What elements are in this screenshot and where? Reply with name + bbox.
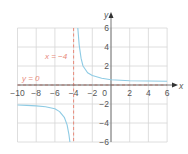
vertical-asymptote-label: x = −4 (44, 52, 68, 61)
x-axis-label: x (178, 81, 184, 91)
curve-left-branch (18, 105, 70, 142)
y-tick-label: 4 (104, 42, 109, 52)
x-tick-label: −2 (87, 88, 97, 98)
y-axis-label: y (103, 10, 109, 20)
y-tick-label: 6 (104, 23, 109, 33)
rational-function-graph: −10−8−6−4−20246642−2−4−6 x y x = −4 y = … (0, 0, 188, 154)
curve-right-branch (78, 28, 167, 81)
x-tick-label: −6 (50, 88, 60, 98)
x-tick-label: 2 (127, 88, 132, 98)
y-tick-label: −2 (99, 99, 109, 109)
y-axis-arrow-icon (109, 12, 114, 18)
y-tick-label: 2 (104, 61, 109, 71)
y-tick-label: −4 (99, 118, 109, 128)
x-tick-label: 0 (102, 88, 107, 98)
y-tick-label: −6 (99, 137, 109, 147)
x-axis-arrow-icon (172, 83, 178, 88)
x-tick-label: −10 (10, 88, 25, 98)
x-tick-label: −4 (69, 88, 79, 98)
x-tick-label: −8 (31, 88, 41, 98)
x-tick-label: 6 (165, 88, 170, 98)
x-tick-label: 4 (146, 88, 151, 98)
horizontal-asymptote-label: y = 0 (21, 74, 40, 83)
